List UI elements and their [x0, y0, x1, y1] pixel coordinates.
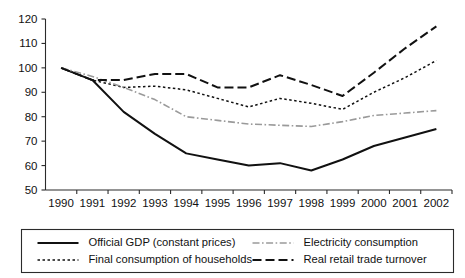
x-axis-tick-label: 2002 [424, 197, 450, 209]
y-axis-tick-label: 90 [25, 86, 38, 98]
x-axis-tick-label: 1992 [111, 197, 137, 209]
y-axis-tick-label: 110 [19, 37, 37, 49]
x-axis-tick-label: 1990 [48, 197, 74, 209]
y-axis-tick-label: 100 [18, 62, 37, 74]
y-axis-tick-label: 50 [25, 184, 38, 196]
x-axis-tick-label: 1991 [80, 197, 106, 209]
x-axis-tick-label: 2001 [392, 197, 418, 209]
y-axis-tick-label: 120 [18, 13, 37, 25]
x-axis-tick-label: 1995 [205, 197, 231, 209]
x-axis-tick-label: 2000 [361, 197, 387, 209]
y-axis-tick-label: 70 [25, 135, 38, 147]
legend-item-label: Official GDP (constant prices) [89, 236, 236, 248]
x-axis-tick-label: 1998 [298, 197, 324, 209]
y-axis-tick-label: 60 [25, 160, 38, 172]
legend-item-label: Electricity consumption [304, 236, 418, 248]
x-axis-tick-label: 1997 [267, 197, 293, 209]
x-axis-tick-label: 1994 [173, 197, 199, 209]
x-axis-tick-label: 1993 [142, 197, 168, 209]
legend-item-label: Real retail trade turnover [304, 253, 427, 265]
line-chart: 5060708090100110120 19901991199219931994… [0, 0, 465, 278]
legend-item-label: Final consumption of households [89, 253, 253, 265]
x-axis-tick-label: 1996 [236, 197, 262, 209]
chart-figure: 5060708090100110120 19901991199219931994… [0, 0, 465, 278]
y-axis-tick-label: 80 [25, 111, 38, 123]
x-axis-tick-label: 1999 [330, 197, 356, 209]
